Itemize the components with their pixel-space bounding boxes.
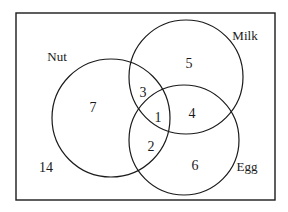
- nut-label: Nut: [47, 49, 67, 64]
- milk-circle: [129, 20, 243, 134]
- region-nut-egg-only: 2: [148, 139, 155, 154]
- venn-diagram: Nut Milk Egg 7 5 6 3 2 4 1 14: [0, 0, 288, 212]
- region-nut-milk-only: 3: [140, 85, 147, 100]
- region-nut-only: 7: [90, 100, 97, 115]
- region-milk-only: 5: [186, 56, 193, 71]
- region-milk-egg-only: 4: [189, 106, 196, 121]
- milk-label: Milk: [232, 28, 258, 43]
- egg-circle: [129, 85, 239, 195]
- region-outside: 14: [39, 160, 53, 175]
- region-egg-only: 6: [192, 158, 199, 173]
- region-all-three: 1: [155, 110, 162, 125]
- nut-circle: [52, 59, 170, 177]
- egg-label: Egg: [237, 159, 258, 174]
